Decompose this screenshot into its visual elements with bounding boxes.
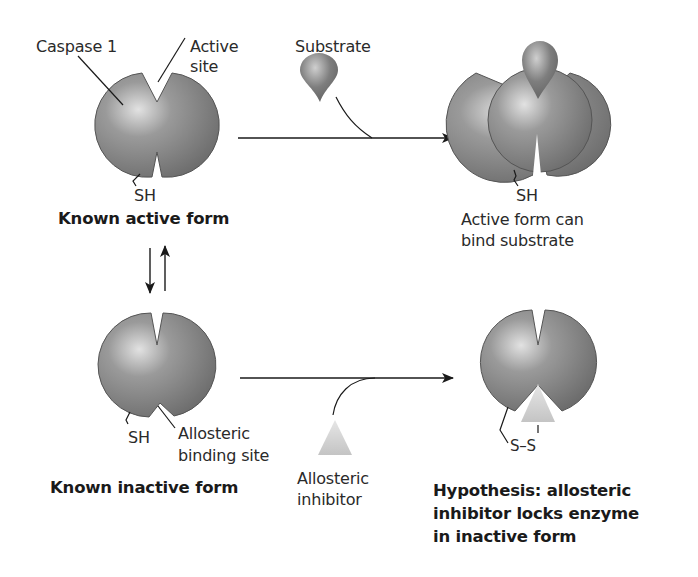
sh-label-bottom-left: SH: [128, 428, 150, 447]
allosteric-inhibitor-icon: [318, 420, 352, 455]
active-form-caption-1: Active form can: [461, 210, 584, 229]
hypothesis-line-1: Hypothesis: allosteric: [433, 480, 631, 501]
known-active-form-title: Known active form: [58, 208, 229, 229]
allosteric-site-label-1: Allosteric: [178, 424, 250, 443]
substrate-icon: [300, 53, 372, 138]
substrate-label: Substrate: [295, 37, 371, 56]
allosteric-site-label-2: binding site: [178, 446, 269, 465]
sh-label-top-left: SH: [134, 186, 156, 205]
active-form-caption-2: bind substrate: [461, 231, 574, 250]
enzyme-inactive-form: [98, 313, 216, 428]
enzyme-locked-inactive: [480, 310, 596, 443]
caspase-pointer: [78, 56, 123, 105]
known-inactive-form-title: Known inactive form: [50, 477, 238, 498]
inhibitor-label-1: Allosteric: [297, 469, 369, 488]
caspase-label: Caspase 1: [36, 37, 117, 56]
inhibitor-label-2: inhibitor: [297, 490, 362, 509]
hypothesis-line-2: inhibitor locks enzyme: [433, 503, 639, 524]
active-site-label-1: Active: [190, 37, 238, 56]
caspase-allosteric-diagram: Caspase 1 Active site Substrate SH Known…: [0, 0, 698, 577]
sh-label-top-right: SH: [516, 186, 538, 205]
disulfide-label: S–S: [510, 437, 536, 456]
active-site-label-2: site: [190, 57, 218, 76]
hypothesis-line-3: in inactive form: [433, 526, 576, 547]
enzyme-bound-substrate: [446, 41, 611, 186]
